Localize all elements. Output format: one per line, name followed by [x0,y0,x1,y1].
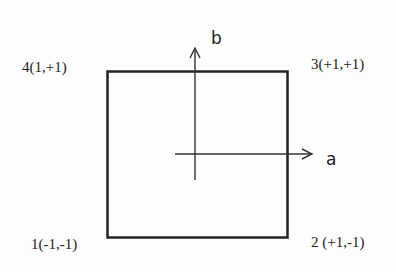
corner-label-2: 2 (+1,-1) [311,235,364,250]
corner-label-4: 4(1,+1) [22,60,67,75]
a-axis-label: a [326,151,336,168]
corner-label-3: 3(+1,+1) [311,57,364,72]
diagram-canvas: b a 4(1,+1) 3(+1,+1) 1(-1,-1) 2 (+1,-1) [0,0,396,272]
corner-label-1: 1(-1,-1) [31,237,77,252]
diagram-svg [0,0,396,272]
b-axis-label: b [211,30,222,47]
